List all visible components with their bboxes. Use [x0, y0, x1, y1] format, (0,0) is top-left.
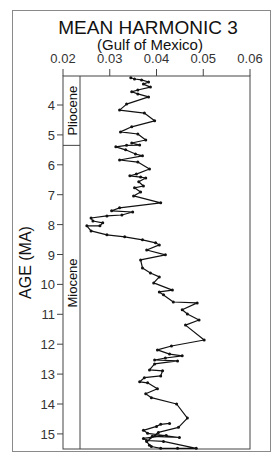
- y-tick-label: 8: [48, 218, 55, 233]
- data-point: [152, 281, 155, 284]
- data-point: [171, 289, 174, 292]
- y-tick-label: 9: [48, 248, 55, 263]
- data-point: [147, 95, 150, 98]
- data-point: [138, 144, 141, 147]
- x-tick-label: 0.04: [144, 51, 169, 66]
- y-tick-label: 15: [41, 427, 55, 442]
- x-tick-label: 0.03: [97, 51, 122, 66]
- data-point: [150, 445, 153, 448]
- data-point: [153, 119, 156, 122]
- data-point: [139, 258, 142, 261]
- data-point: [176, 447, 179, 450]
- data-point: [118, 206, 121, 209]
- data-point: [91, 220, 94, 223]
- data-point: [155, 425, 158, 428]
- data-point: [136, 133, 139, 136]
- data-point: [139, 191, 142, 194]
- data-point: [186, 417, 189, 420]
- chart: MEAN HARMONIC 3 (Gulf of Mexico) 0.020.0…: [0, 0, 278, 456]
- data-point: [130, 141, 133, 144]
- data-point: [130, 125, 133, 128]
- data-point: [177, 426, 180, 429]
- data-point: [146, 432, 149, 435]
- data-point: [145, 249, 148, 252]
- data-point: [158, 243, 161, 246]
- data-point: [157, 431, 160, 434]
- data-point: [181, 354, 184, 357]
- data-point: [159, 374, 162, 377]
- data-point: [143, 376, 146, 379]
- data-point: [118, 109, 121, 112]
- y-tick-label: 11: [42, 307, 56, 322]
- data-point: [144, 138, 147, 141]
- data-point: [135, 173, 138, 176]
- data-point: [130, 90, 133, 93]
- data-point: [101, 221, 104, 224]
- data-point: [162, 293, 165, 296]
- data-point: [136, 89, 139, 92]
- data-point: [149, 86, 152, 89]
- data-point: [110, 209, 113, 212]
- data-point: [149, 272, 152, 275]
- data-point: [154, 241, 157, 244]
- data-point: [153, 362, 156, 365]
- data-point: [85, 224, 88, 227]
- data-point: [203, 339, 206, 342]
- data-point: [172, 301, 175, 304]
- x-axis: 0.020.030.040.050.06: [50, 51, 262, 76]
- data-point: [90, 229, 93, 232]
- data-point: [125, 103, 128, 106]
- data-point: [142, 437, 145, 440]
- data-point: [143, 112, 146, 115]
- data-point: [134, 153, 137, 156]
- data-point: [181, 308, 184, 311]
- data-point: [114, 145, 117, 148]
- data-point: [105, 233, 108, 236]
- data-point: [129, 76, 132, 79]
- data-point: [184, 324, 187, 327]
- y-tick-label: 5: [48, 128, 55, 143]
- y-tick-label: 4: [48, 98, 55, 113]
- data-point: [144, 392, 147, 395]
- data-point: [164, 253, 167, 256]
- data-point: [128, 174, 131, 177]
- data-point: [159, 201, 162, 204]
- y-tick-label: 14: [41, 397, 55, 412]
- plot-frame: [63, 76, 250, 449]
- data-point: [148, 368, 151, 371]
- data-point: [198, 318, 201, 321]
- data-point: [150, 396, 153, 399]
- data-point: [142, 429, 145, 432]
- data-point: [162, 440, 165, 443]
- epoch-column: PlioceneMiocene: [63, 76, 80, 449]
- data-point: [136, 92, 139, 95]
- x-tick-label: 0.02: [50, 51, 75, 66]
- data-point: [146, 381, 149, 384]
- data-point: [141, 266, 144, 269]
- x-tick-label: 0.05: [191, 51, 216, 66]
- data-point: [139, 176, 142, 179]
- data-point: [120, 214, 123, 217]
- data-point: [145, 439, 148, 442]
- data-point: [137, 180, 140, 183]
- data-point: [159, 423, 162, 426]
- data-point: [119, 130, 122, 133]
- data-point: [133, 186, 136, 189]
- data-point: [140, 78, 143, 81]
- data-point: [90, 217, 93, 220]
- data-series: [85, 76, 205, 449]
- data-point: [176, 359, 179, 362]
- data-point: [178, 436, 181, 439]
- data-point: [196, 301, 199, 304]
- y-axis-label: AGE (MA): [17, 226, 34, 299]
- data-point: [151, 435, 154, 438]
- data-point: [123, 235, 126, 238]
- y-axis: 456789101112131415: [41, 98, 63, 442]
- data-point: [133, 77, 136, 80]
- data-point: [141, 154, 144, 157]
- data-point: [158, 290, 161, 293]
- data-point: [148, 167, 151, 170]
- data-point: [168, 353, 171, 356]
- data-point: [186, 313, 189, 316]
- data-point: [165, 434, 168, 437]
